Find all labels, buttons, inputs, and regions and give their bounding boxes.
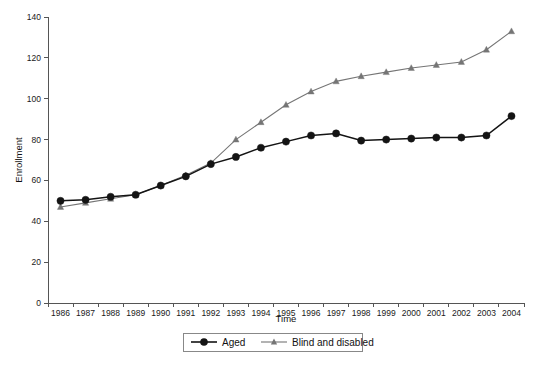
data-point-marker	[233, 136, 239, 142]
series-blind-and-disabled	[57, 28, 514, 210]
legend-label: Aged	[222, 337, 245, 348]
x-tick-label: 1987	[76, 308, 95, 318]
data-point-marker	[333, 130, 340, 137]
data-point-marker	[458, 134, 465, 141]
data-point-marker	[483, 132, 490, 139]
legend-label: Blind and disabled	[292, 337, 374, 348]
data-point-marker	[383, 136, 390, 143]
y-tick-label: 60	[32, 175, 42, 185]
y-axis: 020406080100120140	[27, 12, 48, 308]
data-point-marker	[283, 101, 289, 107]
x-tick-label: 2002	[452, 308, 471, 318]
data-point-marker	[307, 132, 314, 139]
x-tick-label: 1991	[176, 308, 195, 318]
data-series-group	[57, 28, 515, 210]
x-tick-label: 1999	[377, 308, 396, 318]
x-tick-label: 2000	[402, 308, 421, 318]
y-tick-label: 40	[32, 216, 42, 226]
data-point-marker	[157, 182, 164, 189]
data-point-marker	[408, 135, 415, 142]
x-tick-label: 2001	[427, 308, 446, 318]
x-tick-label: 1998	[352, 308, 371, 318]
data-point-marker	[207, 160, 214, 167]
data-point-marker	[132, 191, 139, 198]
data-point-marker	[483, 46, 489, 52]
x-tick-label: 1996	[302, 308, 321, 318]
series-line	[61, 31, 512, 207]
data-point-marker	[358, 137, 365, 144]
x-tick-label: 1992	[201, 308, 220, 318]
x-tick-label: 1990	[151, 308, 170, 318]
data-point-marker	[232, 153, 239, 160]
y-tick-label: 80	[32, 135, 42, 145]
data-point-marker	[57, 197, 64, 204]
enrollment-line-chart: Enrollment 020406080100120140 1986198719…	[0, 0, 540, 368]
series-aged	[57, 112, 515, 204]
data-point-marker	[508, 28, 514, 34]
data-point-marker	[82, 196, 89, 203]
data-point-marker	[257, 144, 264, 151]
data-point-marker	[107, 193, 114, 200]
legend-circle-icon	[200, 338, 208, 346]
y-tick-label: 0	[36, 298, 41, 308]
series-line	[61, 116, 512, 201]
x-tick-label: 1993	[226, 308, 245, 318]
y-tick-label: 100	[27, 94, 41, 104]
y-axis-title: Enrollment	[13, 137, 24, 183]
chart-canvas: Enrollment 020406080100120140 1986198719…	[0, 0, 540, 368]
data-point-marker	[508, 112, 515, 119]
data-point-marker	[433, 134, 440, 141]
data-point-marker	[182, 173, 189, 180]
chart-legend: AgedBlind and disabled	[183, 333, 374, 351]
x-tick-label: 1986	[51, 308, 70, 318]
y-tick-label: 120	[27, 53, 41, 63]
x-tick-label: 1988	[101, 308, 120, 318]
y-tick-label: 140	[27, 12, 41, 22]
data-point-marker	[282, 138, 289, 145]
x-axis-title: Time	[276, 313, 297, 324]
x-tick-label: 1997	[327, 308, 346, 318]
x-tick-label: 1994	[251, 308, 270, 318]
data-point-marker	[258, 119, 264, 125]
x-tick-label: 1989	[126, 308, 145, 318]
y-tick-label: 20	[32, 257, 42, 267]
x-tick-label: 2004	[502, 308, 521, 318]
x-tick-label: 2003	[477, 308, 496, 318]
